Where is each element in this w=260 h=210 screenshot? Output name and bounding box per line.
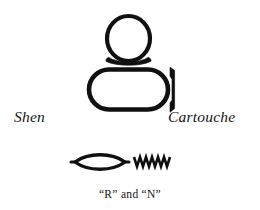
mouth-lens-outline xyxy=(75,155,125,169)
zigzag-path xyxy=(134,157,170,167)
label-cartouche: Cartouche xyxy=(168,108,235,126)
cartouche-oval-icon xyxy=(89,70,168,110)
shen-ring-glyph xyxy=(106,16,151,65)
label-shen: Shen xyxy=(14,108,45,126)
glyph-drawing-canvas xyxy=(0,0,260,210)
cartouche-end-bar-icon xyxy=(170,67,175,112)
water-ripple-glyph-n-icon xyxy=(134,157,170,167)
label-phonetic-caption: “R” and “N” xyxy=(0,188,260,200)
cartouche-glyph xyxy=(89,67,175,112)
shen-circle-icon xyxy=(107,16,150,61)
mouth-glyph-r-icon xyxy=(71,155,129,169)
hieroglyph-figure: Shen Cartouche “R” and “N” xyxy=(0,0,260,210)
